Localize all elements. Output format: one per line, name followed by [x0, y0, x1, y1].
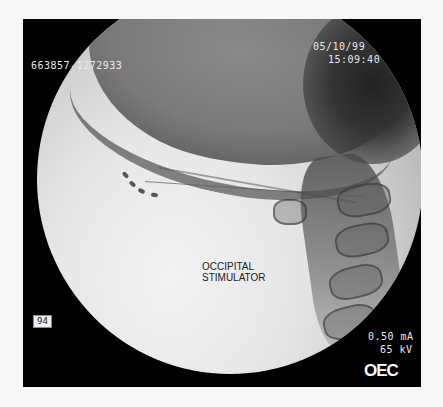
- annotation-line-1: OCCIPITAL: [202, 261, 266, 272]
- fluoroscopy-field-of-view: OCCIPITAL STIMULATOR: [37, 19, 421, 374]
- odontoid-region: [273, 199, 307, 225]
- electrode-contact-1: [122, 171, 130, 179]
- study-time: 15:09:40: [328, 54, 380, 65]
- electrode-contact-4: [151, 192, 159, 197]
- xray-frame: OCCIPITAL STIMULATOR 663857-1272933 05/1…: [23, 19, 421, 387]
- frame-number-badge: 94: [33, 315, 52, 328]
- electrode-contact-3: [137, 188, 145, 195]
- electrode-contact-2: [129, 180, 137, 188]
- oec-logo: OEC: [364, 361, 398, 381]
- study-date: 05/10/99: [313, 41, 365, 52]
- tube-current: 0.50 mA: [368, 331, 414, 342]
- annotation-label: OCCIPITAL STIMULATOR: [202, 261, 266, 283]
- patient-id: 663857-1272933: [31, 60, 122, 71]
- tube-voltage: 65 kV: [380, 344, 413, 355]
- annotation-line-2: STIMULATOR: [202, 272, 266, 283]
